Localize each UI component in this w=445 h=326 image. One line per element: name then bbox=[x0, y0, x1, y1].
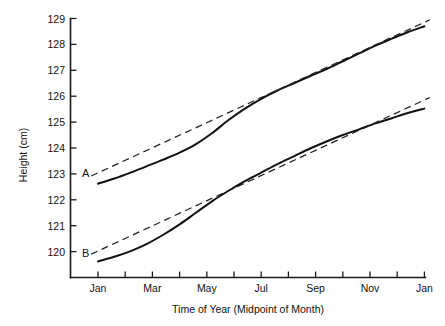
y-tick-label: 122 bbox=[47, 194, 65, 206]
x-tick-labels: Jan Mar May Jul Sep Nov Jan bbox=[90, 282, 433, 294]
y-tick-label: 129 bbox=[47, 13, 65, 25]
x-tick-group bbox=[98, 272, 424, 278]
series-line-b-trend bbox=[91, 97, 430, 254]
x-tick-label-jul: Jul bbox=[254, 282, 267, 294]
y-tick-label: 121 bbox=[47, 220, 65, 232]
y-tick-label: 128 bbox=[47, 38, 65, 50]
chart-figure: Height (cm) 129 128 127 126 125 124 123 bbox=[0, 0, 445, 326]
x-tick-label-jan-1: Jan bbox=[90, 282, 107, 294]
series-line-a-trend bbox=[91, 20, 430, 176]
y-tick-label: 124 bbox=[47, 142, 65, 154]
y-tick-labels: 129 128 127 126 125 124 123 122 121 120 bbox=[47, 13, 65, 258]
line-chart: Height (cm) 129 128 127 126 125 124 123 bbox=[0, 0, 445, 326]
x-tick-label-sep: Sep bbox=[306, 282, 325, 294]
x-tick-label-may: May bbox=[197, 282, 218, 294]
x-tick-label-mar: Mar bbox=[143, 282, 162, 294]
y-tick-label: 120 bbox=[47, 246, 65, 258]
x-tick-label-jan-2: Jan bbox=[416, 282, 433, 294]
series-label-b: B bbox=[82, 247, 89, 259]
y-tick-label: 126 bbox=[47, 90, 65, 102]
series-layer bbox=[91, 20, 430, 262]
y-tick-label: 125 bbox=[47, 116, 65, 128]
series-line-a bbox=[98, 26, 424, 183]
y-tick-group bbox=[71, 19, 77, 252]
y-axis-title: Height (cm) bbox=[17, 128, 29, 182]
x-tick-label-nov: Nov bbox=[361, 282, 380, 294]
series-label-a: A bbox=[82, 167, 90, 179]
y-tick-label: 123 bbox=[47, 168, 65, 180]
series-annotations: AB bbox=[82, 167, 90, 259]
x-axis-title: Time of Year (Midpoint of Month) bbox=[172, 303, 324, 315]
series-line-b bbox=[98, 109, 424, 262]
y-tick-label: 127 bbox=[47, 64, 65, 76]
